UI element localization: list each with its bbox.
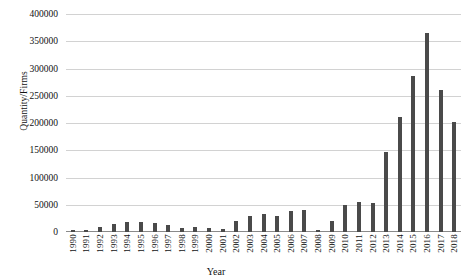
x-tick-slot: 2009 <box>325 234 339 268</box>
bar <box>98 227 102 232</box>
x-tick-slot: 1992 <box>93 234 107 268</box>
bar <box>207 228 211 232</box>
bar-slot <box>298 14 312 232</box>
x-axis-tick-label: 1993 <box>109 234 119 253</box>
bar-slot <box>66 14 80 232</box>
bar-series <box>66 14 461 232</box>
bar-slot <box>189 14 203 232</box>
y-axis-tick-label: 350000 <box>30 36 59 46</box>
x-tick-slot: 1990 <box>66 234 80 268</box>
x-axis-tick-label: 2001 <box>218 234 228 253</box>
x-axis-tick-label: 1997 <box>163 234 173 253</box>
x-tick-slot: 2016 <box>420 234 434 268</box>
bar-chart: Quantity/Firms 4000003500003000002500002… <box>0 0 467 280</box>
bar <box>343 205 347 232</box>
x-axis-tick-label: 2015 <box>408 234 418 253</box>
x-axis-tick-label: 1992 <box>95 234 105 253</box>
x-tick-slot: 2008 <box>311 234 325 268</box>
bar <box>234 221 238 232</box>
x-tick-slot: 2005 <box>270 234 284 268</box>
bar-slot <box>393 14 407 232</box>
bar-slot <box>175 14 189 232</box>
x-axis-tick-label: 2012 <box>368 234 378 253</box>
x-tick-slot: 2011 <box>352 234 366 268</box>
bar-slot <box>80 14 94 232</box>
y-axis-tick-label: 100000 <box>30 173 59 183</box>
x-axis-tick-label: 1996 <box>150 234 160 253</box>
x-axis-tick-label: 2017 <box>436 234 446 253</box>
x-axis-tick-label: 2006 <box>286 234 296 253</box>
x-axis-tick-label: 2011 <box>354 234 364 252</box>
bar <box>262 214 266 232</box>
x-axis-tick-label: 2000 <box>204 234 214 253</box>
x-axis-tick-label: 2004 <box>259 234 269 253</box>
bar-slot <box>216 14 230 232</box>
bar <box>112 224 116 232</box>
x-axis-tick-label: 2016 <box>422 234 432 253</box>
bar <box>84 230 88 232</box>
bar-slot <box>311 14 325 232</box>
x-axis-tick-label: 1999 <box>190 234 200 253</box>
x-axis-tick-label: 1994 <box>122 234 132 253</box>
bar-slot <box>420 14 434 232</box>
x-axis-tick-label: 2007 <box>299 234 309 253</box>
x-axis-tick-label: 2009 <box>327 234 337 253</box>
x-axis-title: Year <box>66 266 366 277</box>
x-axis-tick-label: 1995 <box>136 234 146 253</box>
bar <box>452 122 456 232</box>
bar-slot <box>434 14 448 232</box>
x-axis-tick-label: 1998 <box>177 234 187 253</box>
bar <box>153 223 157 232</box>
x-axis-tick-label: 2008 <box>313 234 323 253</box>
bar <box>125 222 129 232</box>
x-tick-slot: 2012 <box>366 234 380 268</box>
bar-slot <box>107 14 121 232</box>
bar-slot <box>448 14 462 232</box>
bar <box>425 33 429 232</box>
x-tick-slot: 2017 <box>434 234 448 268</box>
bar-slot <box>270 14 284 232</box>
bar-slot <box>407 14 421 232</box>
x-tick-slot: 2013 <box>379 234 393 268</box>
bar-slot <box>148 14 162 232</box>
x-axis-tick-label: 2002 <box>231 234 241 253</box>
bar <box>357 202 361 232</box>
x-tick-slot: 2014 <box>393 234 407 268</box>
y-axis-tick-label: 0 <box>53 227 58 237</box>
x-tick-slot: 1994 <box>121 234 135 268</box>
bar <box>275 216 279 232</box>
bar <box>71 230 75 232</box>
x-tick-slot: 2010 <box>339 234 353 268</box>
y-axis-tick-label: 150000 <box>30 145 59 155</box>
bar <box>398 117 402 232</box>
x-tick-slot: 1991 <box>80 234 94 268</box>
y-axis-tick-label: 300000 <box>30 64 59 74</box>
x-tick-slot: 1995 <box>134 234 148 268</box>
x-tick-slot: 1997 <box>161 234 175 268</box>
x-tick-slot: 1996 <box>148 234 162 268</box>
y-axis-tick-label: 400000 <box>30 9 59 19</box>
x-tick-slot: 2007 <box>298 234 312 268</box>
bar <box>384 152 388 232</box>
bar-slot <box>202 14 216 232</box>
bar <box>166 225 170 232</box>
bar <box>439 90 443 232</box>
x-tick-slot: 1993 <box>107 234 121 268</box>
bar <box>316 230 320 232</box>
x-axis-tick-label: 1990 <box>68 234 78 253</box>
x-tick-slot: 2000 <box>202 234 216 268</box>
bar-slot <box>366 14 380 232</box>
bar-slot <box>379 14 393 232</box>
x-axis-tick-labels: 1990199119921993199419951996199719981999… <box>66 234 461 268</box>
bar <box>139 222 143 232</box>
x-tick-slot: 1999 <box>189 234 203 268</box>
y-axis-tick-label: 250000 <box>30 91 59 101</box>
bar-slot <box>134 14 148 232</box>
bar-slot <box>230 14 244 232</box>
x-tick-slot: 2003 <box>243 234 257 268</box>
x-axis-tick-label: 2014 <box>395 234 405 253</box>
y-axis-tick-label: 200000 <box>30 118 59 128</box>
bar <box>248 216 252 232</box>
x-axis-tick-label: 2010 <box>340 234 350 253</box>
bar <box>193 227 197 232</box>
